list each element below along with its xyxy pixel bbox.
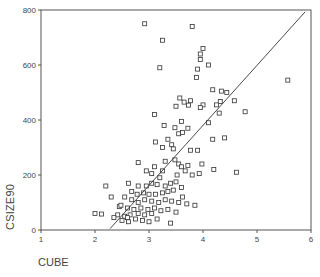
data-point [130,198,134,202]
data-point [286,78,290,82]
x-tick-label: 4 [201,235,206,244]
data-point [136,201,140,205]
axes [38,10,311,233]
y-tick-label: 0 [32,226,37,235]
data-point [152,113,156,117]
data-point [215,103,219,107]
data-point [201,47,205,51]
data-point [112,216,116,220]
data-point [243,110,247,114]
data-point [173,126,177,130]
data-point [166,207,170,211]
data-point [93,212,97,216]
data-point [126,181,130,185]
x-tick-label: 3 [147,235,152,244]
data-point [136,161,140,165]
data-point [234,170,238,174]
data-point [125,216,129,220]
data-point [150,199,154,203]
data-point [147,220,151,224]
data-point [198,52,202,56]
data-point [169,181,173,185]
data-point [152,165,156,169]
data-point [150,212,154,216]
data-point [189,148,193,152]
data-point [193,203,197,207]
data-point [174,210,178,214]
data-point [219,89,223,93]
data-point [163,198,167,202]
data-point [162,124,166,128]
data-point [123,195,127,199]
data-point [186,103,190,107]
data-point [179,185,183,189]
data-point [195,75,199,79]
data-point [158,176,162,180]
data-point [136,184,140,188]
data-point [143,198,147,202]
data-point [179,165,183,169]
data-point [163,159,167,163]
data-point [161,191,165,195]
data-point [178,96,182,100]
data-point [175,173,179,177]
data-point [206,63,210,67]
data-point [143,22,147,26]
data-points [93,22,290,225]
data-point [198,58,202,62]
data-point [109,195,113,199]
data-point [132,207,136,211]
x-tick-label: 1 [39,235,44,244]
scatter-plot: 0200400600800123456 [0,0,320,277]
data-point [161,146,165,150]
data-point [185,202,189,206]
data-point [153,192,157,196]
data-point [212,168,216,172]
data-point [197,172,201,176]
data-point [170,143,174,147]
data-point [144,169,148,173]
y-tick-label: 200 [23,171,37,180]
x-tick-label: 6 [309,235,314,244]
data-point [211,137,215,141]
data-point [146,207,150,211]
data-point [190,25,194,29]
data-point [169,221,173,225]
data-point [174,104,178,108]
data-point [158,66,162,70]
data-point [147,192,151,196]
plot-frame [41,10,311,230]
data-point [157,201,161,205]
data-point [232,99,236,103]
y-tick-label: 800 [23,6,37,15]
data-point [152,206,156,210]
data-point [130,190,134,194]
data-point [143,213,147,217]
data-point [171,188,175,192]
data-point [189,99,193,103]
data-point [179,119,183,123]
data-point [180,130,184,134]
x-tick-label: 2 [93,235,98,244]
data-point [183,169,187,173]
data-point [166,190,170,194]
data-point [174,180,178,184]
data-point [196,67,200,71]
data-point [166,137,170,141]
data-point [182,100,186,104]
data-point [211,88,215,92]
x-axis-label: CUBE [38,256,69,268]
data-point [223,136,227,140]
data-point [99,212,103,216]
data-point [200,162,204,166]
data-point [180,195,184,199]
data-point [134,217,138,221]
data-point [190,173,194,177]
data-point [155,217,159,221]
data-point [198,106,202,110]
data-point [104,184,108,188]
data-point [120,218,124,222]
data-point [141,218,145,222]
data-point [135,192,139,196]
data-point [186,163,190,167]
